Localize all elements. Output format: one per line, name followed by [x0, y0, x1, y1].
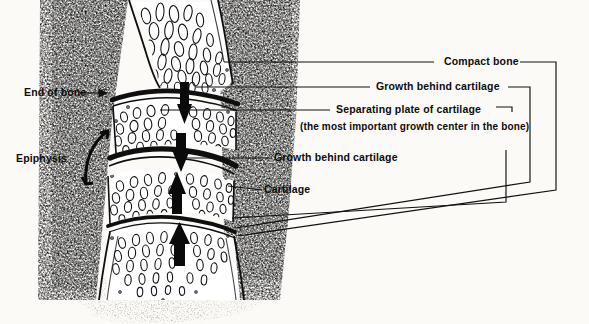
growth-arrow-4	[169, 222, 190, 266]
soft-tissue-shading	[30, 0, 306, 324]
label-cartilage: Cartilage	[264, 183, 310, 195]
growth-arrow-1	[177, 82, 192, 124]
bone-outlines	[99, 0, 244, 300]
growth-arrow-3	[168, 172, 186, 214]
label-growth-behind-cartilage-upper: Growth behind cartilage	[376, 80, 500, 92]
label-compact-bone: Compact bone	[444, 55, 519, 67]
growth-arrows	[168, 82, 192, 266]
label-growth-behind-cartilage-lower: Growth behind cartilage	[274, 151, 398, 163]
trabecular-texture	[110, 3, 236, 301]
growth-arrow-2	[172, 133, 190, 172]
leader-cartilage	[228, 186, 262, 190]
label-separating-plate-note: (the most important growth center in the…	[300, 121, 529, 133]
epiphysis-bracket-icon	[82, 131, 108, 184]
label-epiphysis: Epiphysis	[16, 152, 67, 164]
leader-separating-plate-right	[496, 107, 512, 112]
label-separating-plate-of-cartilage: Separating plate of cartilage	[336, 103, 481, 115]
bone-body	[106, 2, 240, 300]
label-end-of-bone: End of bone	[24, 86, 86, 98]
figure-canvas: Compact bone Growth behind cartilage Sep…	[0, 0, 589, 324]
